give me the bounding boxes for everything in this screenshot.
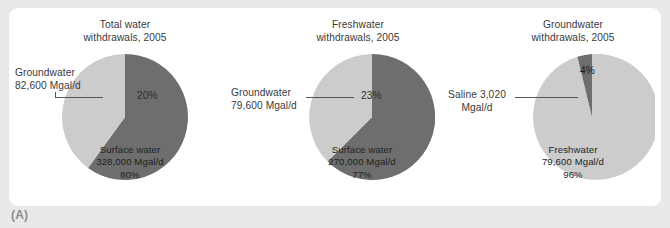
pie-slice-percent-groundwater: 20% [137,90,158,101]
pie-center-label-surface-water: Surface water 270,000 Mgal/d 77% [287,144,437,181]
pie-title-groundwater: Groundwater withdrawals, 2005 [441,18,661,44]
pie-callout-label-groundwater: Groundwater 82,600 Mgal/d [15,66,81,92]
pie-chart-groundwater-withdrawals: Groundwater withdrawals, 2005 4% Freshwa… [441,8,661,206]
pie-title-freshwater: Freshwater withdrawals, 2005 [231,18,451,44]
figure-caption: (A) [11,208,28,222]
pie-leader-line-tick [55,92,56,98]
pie-callout-label-saline: Saline 3,020 Mgal/d [441,88,513,114]
pie-chart-freshwater-withdrawals: Freshwater withdrawals, 2005 23% Surface… [231,8,451,206]
pie-leader-line-horizontal [306,97,354,98]
pie-slice-percent-saline: 4% [580,65,595,76]
pie-leader-line-horizontal [55,97,103,98]
pie-chart-total-water-withdrawals: Total water withdrawals, 2005 20% Surfac… [9,8,241,206]
pie-leader-line-horizontal [515,97,578,98]
pie-center-label-freshwater: Freshwater 79,600 Mgal/d 96% [503,144,643,181]
figure-card: Total water withdrawals, 2005 20% Surfac… [9,8,661,206]
pie-center-label-surface-water: Surface water 328,000 Mgal/d 80% [55,144,205,181]
pie-callout-label-groundwater: Groundwater 79,600 Mgal/d [231,86,297,112]
pie-slice-percent-groundwater: 23% [361,90,382,101]
pie-title-total-water: Total water withdrawals, 2005 [9,18,241,44]
